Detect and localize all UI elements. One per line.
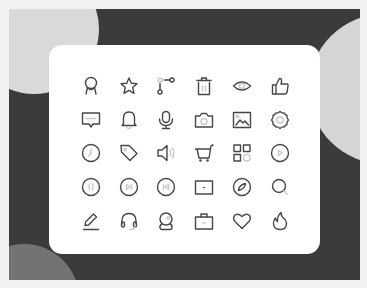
previous-circle-icon[interactable]: [148, 170, 186, 204]
clock-icon[interactable]: [72, 137, 110, 171]
apps-grid-icon[interactable]: [223, 137, 261, 171]
icon-card: [49, 45, 320, 254]
award-icon[interactable]: [72, 69, 110, 103]
git-branch-icon[interactable]: [148, 69, 186, 103]
play-circle-icon[interactable]: [261, 137, 299, 171]
tag-icon[interactable]: [110, 137, 148, 171]
star-icon[interactable]: [110, 69, 148, 103]
message-icon[interactable]: [72, 103, 110, 137]
shopping-cart-icon[interactable]: [185, 137, 223, 171]
webcam-icon[interactable]: [148, 204, 186, 238]
wallet-icon[interactable]: [185, 170, 223, 204]
thumbs-up-icon[interactable]: [261, 69, 299, 103]
compass-icon[interactable]: [223, 170, 261, 204]
pause-circle-icon[interactable]: [72, 170, 110, 204]
icon-grid: [72, 69, 299, 238]
heart-icon[interactable]: [223, 204, 261, 238]
edit-icon[interactable]: [72, 204, 110, 238]
trash-icon[interactable]: [185, 69, 223, 103]
bell-icon[interactable]: [110, 103, 148, 137]
settings-icon[interactable]: [261, 103, 299, 137]
volume-icon[interactable]: [148, 137, 186, 171]
fire-icon[interactable]: [261, 204, 299, 238]
eye-icon[interactable]: [223, 69, 261, 103]
headphones-icon[interactable]: [110, 204, 148, 238]
briefcase-icon[interactable]: [185, 204, 223, 238]
microphone-icon[interactable]: [148, 103, 186, 137]
next-circle-icon[interactable]: [110, 170, 148, 204]
search-icon[interactable]: [261, 170, 299, 204]
camera-icon[interactable]: [185, 103, 223, 137]
image-icon[interactable]: [223, 103, 261, 137]
